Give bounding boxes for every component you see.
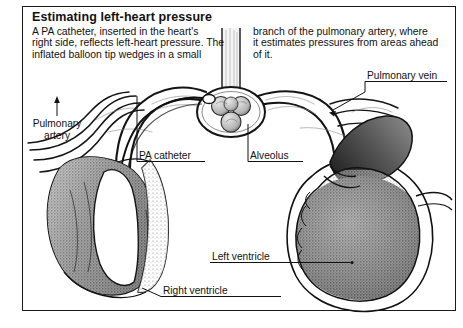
label-pa-catheter: PA catheter (139, 150, 191, 161)
figure-page: Estimating left-heart pressure A PA cath… (0, 0, 463, 328)
left-ventricle-shape (287, 116, 452, 315)
arrowhead-pulmonary-vein (329, 111, 336, 117)
inflated-balloon-tip (203, 94, 215, 103)
label-pulmonary-vein: Pulmonary vein (367, 70, 437, 81)
label-left-ventricle: Left ventricle (212, 251, 270, 262)
label-alveolus: Alveolus (250, 150, 289, 161)
leader-dot-left-ventricle (350, 261, 353, 264)
label-pulmonary-artery: Pulmonary artery (18, 118, 96, 142)
body-text-left-column: A PA catheter, inserted in the heart's r… (32, 26, 224, 60)
label-right-ventricle: Right ventricle (163, 285, 228, 296)
bronchiole (222, 28, 240, 92)
body-text-right-column: branch of the pulmonary artery, where it… (253, 26, 438, 60)
figure-title: Estimating left-heart pressure (32, 10, 212, 24)
arrowhead-pulmonary-artery (54, 96, 60, 103)
